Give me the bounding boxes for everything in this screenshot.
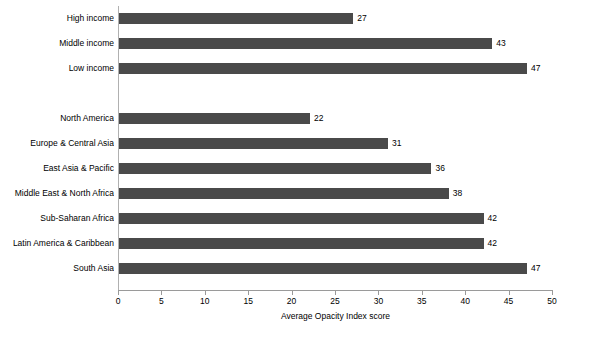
bar-value-label: 36: [435, 163, 444, 174]
bar-row: North America22: [0, 106, 590, 131]
bar: [119, 213, 484, 224]
bar-value-label: 31: [392, 138, 401, 149]
category-label: [0, 81, 114, 106]
x-axis-tick-label: 35: [407, 296, 437, 306]
bar: [119, 188, 449, 199]
x-axis-tick-label: 25: [320, 296, 350, 306]
bar-chart: High income27Middle income43Low income47…: [0, 0, 590, 338]
bar-row: Middle East & North Africa38: [0, 181, 590, 206]
bar-row: East Asia & Pacific36: [0, 156, 590, 181]
bar-row: Low income47: [0, 56, 590, 81]
bar-row: Europe & Central Asia31: [0, 131, 590, 156]
bar-row: High income27: [0, 6, 590, 31]
bar-value-label: 42: [488, 213, 497, 224]
x-axis-tick: [552, 291, 553, 295]
x-axis-tick-label: 10: [190, 296, 220, 306]
category-label: East Asia & Pacific: [0, 156, 114, 181]
bar: [119, 63, 527, 74]
plot-area: High income27Middle income43Low income47…: [0, 0, 590, 338]
category-label: Low income: [0, 56, 114, 81]
bar-value-label: 47: [531, 63, 540, 74]
bar: [119, 138, 388, 149]
bar-value-label: 27: [357, 13, 366, 24]
category-label: High income: [0, 6, 114, 31]
bar-value-label: 42: [488, 238, 497, 249]
x-axis-tick-label: 45: [494, 296, 524, 306]
x-axis-tick-label: 15: [233, 296, 263, 306]
bar-value-label: 22: [314, 113, 323, 124]
category-label: Sub-Saharan Africa: [0, 206, 114, 231]
category-label: North America: [0, 106, 114, 131]
category-label: South Asia: [0, 256, 114, 281]
bar: [119, 38, 492, 49]
x-axis-title: Average Opacity Index score: [118, 311, 553, 321]
x-axis-tick-label: 0: [103, 296, 133, 306]
x-axis-tick: [509, 291, 510, 295]
bar-row: South Asia47: [0, 256, 590, 281]
x-axis-tick: [335, 291, 336, 295]
bar-value-label: 43: [496, 38, 505, 49]
bar-row: Latin America & Caribbean42: [0, 231, 590, 256]
x-axis-tick-label: 5: [146, 296, 176, 306]
x-axis-tick: [248, 291, 249, 295]
bar-row: Sub-Saharan Africa42: [0, 206, 590, 231]
bar: [119, 163, 431, 174]
x-axis-tick-label: 50: [537, 296, 567, 306]
x-axis-tick: [465, 291, 466, 295]
bar-row-spacer: [0, 81, 590, 106]
category-label: Middle income: [0, 31, 114, 56]
bar-value-label: 38: [453, 188, 462, 199]
x-axis-tick: [161, 291, 162, 295]
x-axis-tick-label: 30: [363, 296, 393, 306]
bar: [119, 113, 310, 124]
category-label: Latin America & Caribbean: [0, 231, 114, 256]
bar: [119, 13, 353, 24]
x-axis-tick: [422, 291, 423, 295]
bar-row: Middle income43: [0, 31, 590, 56]
x-axis-tick-label: 40: [450, 296, 480, 306]
bar-value-label: 47: [531, 263, 540, 274]
bar: [119, 238, 484, 249]
x-axis-tick: [292, 291, 293, 295]
category-label: Europe & Central Asia: [0, 131, 114, 156]
category-label: Middle East & North Africa: [0, 181, 114, 206]
x-axis-tick: [205, 291, 206, 295]
x-axis-tick: [378, 291, 379, 295]
x-axis-tick-label: 20: [277, 296, 307, 306]
x-axis-tick: [118, 291, 119, 295]
bar: [119, 263, 527, 274]
